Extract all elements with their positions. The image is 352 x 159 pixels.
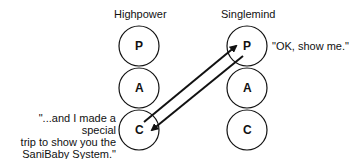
hp-c-letter: C xyxy=(135,124,144,136)
sm-p-letter: P xyxy=(243,40,251,52)
sm-a-letter: A xyxy=(243,82,252,94)
hp-a-letter: A xyxy=(135,82,144,94)
sm-c-letter: C xyxy=(243,124,252,136)
hp-p-letter: P xyxy=(135,40,143,52)
arrow-child-to-parent xyxy=(144,46,236,122)
highpower-quote-line-3: SaniBaby System." xyxy=(2,148,116,159)
arrow-parent-to-child xyxy=(152,56,243,130)
highpower-quote-line-2: trip to show you the xyxy=(2,136,116,148)
highpower-quote-line-1: "...and I made a special xyxy=(2,112,116,136)
highpower-quote: "...and I made a special trip to show yo… xyxy=(2,112,116,159)
singlemind-quote: "OK, show me." xyxy=(272,40,349,52)
